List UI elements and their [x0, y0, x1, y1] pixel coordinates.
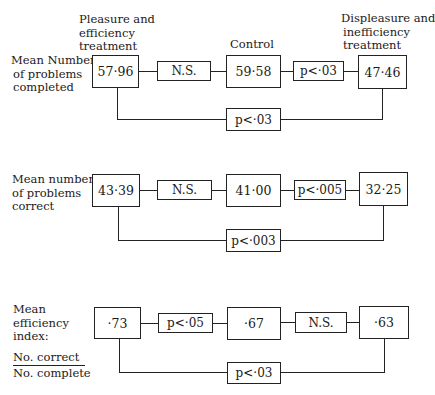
connector: [212, 323, 228, 324]
connector: [383, 205, 384, 240]
value-displeasure-efficiency: ·63: [359, 306, 409, 339]
sig-pleasure-vs-control-correct: N.S.: [157, 180, 212, 200]
label-line: of problems: [12, 187, 94, 201]
header-pleasure-treatment: Pleasure and efficiency treatment: [79, 13, 155, 54]
value-control-completed: 59·58: [226, 55, 281, 88]
header-line: treatment: [341, 39, 435, 53]
header-line: Pleasure and: [79, 13, 155, 27]
connector: [384, 338, 385, 372]
sig-pleasure-vs-displeasure-efficiency: p<·03: [227, 362, 281, 384]
header-control: Control: [230, 38, 274, 52]
connector: [343, 71, 359, 72]
value-displeasure-completed: 47·46: [358, 55, 407, 89]
sig-pleasure-vs-control-completed: N.S.: [157, 61, 211, 81]
connector: [211, 190, 227, 191]
label-line: index:: [13, 330, 69, 344]
value-pleasure-correct: 43·39: [92, 174, 140, 207]
connector: [140, 190, 158, 191]
connector: [118, 206, 119, 240]
label-line: efficiency: [13, 317, 69, 331]
connector: [119, 338, 120, 372]
label-line: Mean number: [12, 173, 94, 187]
header-line: efficiency: [79, 27, 155, 41]
sig-control-vs-displeasure-completed: p<·03: [293, 61, 344, 81]
value-displeasure-correct: 32·25: [359, 172, 408, 206]
value-pleasure-completed: 57·96: [92, 55, 139, 88]
connector: [138, 71, 158, 72]
header-displeasure-treatment: Displeasure and inefficiency treatment: [341, 12, 435, 53]
formula-denominator: No. complete: [13, 366, 91, 380]
label-line: Mean: [13, 303, 69, 317]
row-label-problems-correct: Mean number of problems correct: [12, 173, 94, 214]
label-line: completed: [11, 81, 96, 95]
connector: [280, 71, 294, 72]
connector: [140, 323, 159, 324]
header-line: treatment: [79, 40, 155, 54]
row-label-efficiency-index: Mean efficiency index:: [13, 303, 69, 344]
efficiency-formula: No. correct No. complete: [13, 350, 91, 380]
label-line: correct: [12, 200, 94, 214]
value-control-correct: 41·00: [226, 174, 281, 207]
connector: [210, 71, 227, 72]
row-label-problems-completed: Mean Number of problems completed: [11, 54, 96, 95]
connector: [117, 87, 118, 119]
sig-pleasure-vs-displeasure-completed: p<·03: [226, 108, 281, 131]
sig-pleasure-vs-control-efficiency: p<·05: [158, 313, 213, 333]
connector: [345, 190, 360, 191]
header-line: inefficiency: [341, 26, 435, 40]
formula-numerator: No. correct: [13, 350, 85, 366]
value-pleasure-efficiency: ·73: [94, 307, 141, 339]
sig-pleasure-vs-displeasure-correct: p<·003: [226, 229, 281, 252]
connector: [280, 190, 295, 191]
sig-control-vs-displeasure-efficiency: N.S.: [295, 312, 347, 333]
header-line: Displeasure and: [341, 12, 435, 26]
label-line: Mean Number: [11, 54, 96, 68]
connector: [280, 322, 296, 323]
value-control-efficiency: ·67: [227, 307, 281, 340]
sig-control-vs-displeasure-correct: p<·005: [294, 180, 346, 200]
label-line: of problems: [11, 68, 96, 82]
connector: [346, 322, 360, 323]
connector: [382, 88, 383, 119]
